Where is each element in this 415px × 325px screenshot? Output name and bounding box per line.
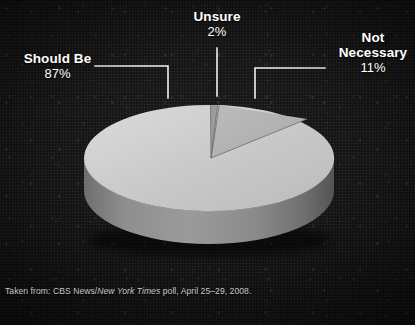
label-unsure-percent: 2% — [170, 25, 264, 40]
label-should-be-percent: 87% — [5, 67, 110, 82]
leader-lines — [95, 48, 325, 98]
label-not-necessary-percent: 11% — [334, 61, 412, 76]
label-unsure-name: Unsure — [170, 9, 264, 24]
label-not-necessary-name: Not Necessary — [334, 31, 412, 60]
label-unsure: Unsure 2% — [170, 9, 264, 40]
source-publication: New York Times — [97, 286, 160, 296]
pie-chart-slide: Unsure 2% Should Be 87% Not Necessary 11… — [0, 0, 415, 325]
source-credit: Taken from: CBS News/New York Times poll… — [5, 286, 251, 296]
source-prefix: Taken from: CBS News/ — [5, 286, 97, 296]
label-should-be: Should Be 87% — [5, 51, 110, 82]
source-suffix: poll, April 25–29, 2008. — [160, 286, 251, 296]
label-should-be-name: Should Be — [5, 51, 110, 66]
leader-line-not-necessary — [255, 68, 325, 98]
label-not-necessary: Not Necessary 11% — [334, 31, 412, 76]
